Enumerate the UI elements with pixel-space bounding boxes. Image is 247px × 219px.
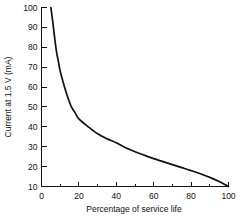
y-tick-label-90: 90: [28, 22, 38, 32]
y-axis-title: Current at 1.5 V (mA): [3, 56, 13, 137]
data-curve-current: [51, 8, 229, 187]
chart-figure: 102030405060708090100 020406080100 Perce…: [0, 0, 247, 219]
y-axis-ticks: [42, 8, 47, 187]
chart-plot-area: 102030405060708090100 020406080100 Perce…: [0, 0, 247, 219]
x-tick-label-100: 100: [221, 191, 235, 201]
y-tick-label-80: 80: [28, 42, 38, 52]
x-tick-label-60: 60: [149, 191, 159, 201]
x-axis-title: Percentage of service life: [86, 204, 182, 214]
x-tick-label-20: 20: [74, 191, 84, 201]
x-tick-label-40: 40: [112, 191, 122, 201]
y-tick-label-20: 20: [28, 162, 38, 172]
x-axis-tick-labels: 020406080100: [39, 191, 236, 201]
y-tick-label-40: 40: [28, 122, 38, 132]
x-tick-label-0: 0: [39, 191, 44, 201]
y-tick-label-70: 70: [28, 62, 38, 72]
y-tick-label-50: 50: [28, 102, 38, 112]
y-tick-label-60: 60: [28, 82, 38, 92]
x-tick-label-80: 80: [186, 191, 196, 201]
axes-group: [41, 7, 229, 187]
y-axis-tick-labels: 102030405060708090100: [23, 3, 37, 192]
y-tick-label-100: 100: [23, 3, 37, 13]
y-tick-label-10: 10: [28, 182, 38, 192]
y-tick-label-30: 30: [28, 142, 38, 152]
